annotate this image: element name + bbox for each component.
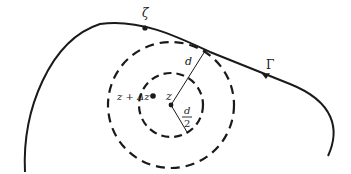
- center-point-z: [169, 103, 174, 108]
- half-d-denominator: 2: [184, 118, 190, 129]
- z-label: z: [165, 90, 172, 103]
- half-d-numerator: d: [184, 105, 190, 116]
- point-z-plus-delta-z: [150, 93, 156, 99]
- contour-gamma-curve: [25, 23, 334, 172]
- zeta-label: ζ: [142, 6, 150, 20]
- contour-diagram: ζ Γ d z z + Δz d 2: [0, 0, 351, 174]
- gamma-label: Γ: [266, 58, 274, 72]
- d-label: d: [185, 55, 192, 68]
- diagram-canvas: ζ Γ d z z + Δz d 2: [0, 0, 351, 174]
- zeta-point: [142, 25, 147, 30]
- z-plus-delta-z-label: z + Δz: [116, 91, 150, 102]
